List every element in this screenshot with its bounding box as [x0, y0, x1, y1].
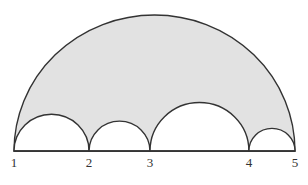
point-label-5: 5: [292, 155, 299, 170]
point-label-4: 4: [246, 155, 253, 170]
point-label-2: 2: [86, 155, 93, 170]
point-labels: 12345: [11, 155, 299, 170]
point-label-1: 1: [11, 155, 18, 170]
semicircle-diagram: 12345: [0, 0, 308, 185]
point-label-3: 3: [147, 155, 154, 170]
